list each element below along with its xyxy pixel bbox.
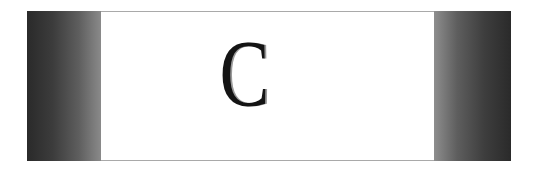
right-gradient-panel [434,11,511,161]
card-letter: C [220,26,267,122]
top-rule [101,11,434,12]
left-gradient-panel [27,11,101,161]
bottom-rule [101,160,434,161]
